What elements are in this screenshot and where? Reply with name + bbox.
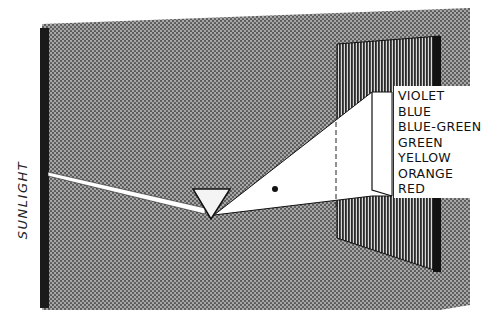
spectrum-label-green: GREEN — [398, 135, 481, 151]
spectrum-label-red: RED — [398, 181, 481, 197]
spectrum-label-violet: VIOLET — [398, 88, 481, 104]
spectrum-label-orange: ORANGE — [398, 166, 481, 182]
sunlight-label: SUNLIGHT — [2, 150, 42, 250]
marker-dot — [272, 186, 278, 192]
spectrum-label-yellow: YELLOW — [398, 150, 481, 166]
spectrum-label-blue-green: BLUE-GREEN — [398, 119, 481, 135]
spectrum-labels: VIOLET BLUE BLUE-GREEN GREEN YELLOW ORAN… — [398, 88, 481, 197]
spectrum-label-blue: BLUE — [398, 104, 481, 120]
screen-edge-lower — [433, 198, 441, 272]
